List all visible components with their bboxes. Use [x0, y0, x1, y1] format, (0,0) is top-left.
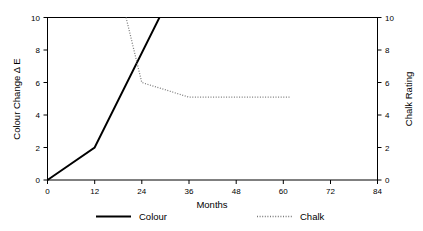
left-ytick-label-2: 2 [36, 144, 41, 153]
right-ytick-label-4: 4 [385, 111, 390, 120]
xtick-label-24: 24 [137, 187, 146, 196]
x-axis-title: Months [196, 199, 227, 210]
right-y-axis: 0 2 4 6 8 10 Chalk Rating [378, 14, 415, 186]
right-ytick-label-6: 6 [385, 79, 390, 88]
xtick-label-12: 12 [90, 187, 99, 196]
right-ytick-label-10: 10 [385, 14, 394, 23]
line-chart: 0 2 4 6 8 10 Colour Change Δ E 0 2 4 6 8… [0, 0, 423, 231]
right-ytick-label-8: 8 [385, 46, 390, 55]
xtick-label-36: 36 [185, 187, 194, 196]
left-ytick-label-6: 6 [36, 79, 41, 88]
plot-frame [48, 18, 378, 181]
left-ytick-label-8: 8 [36, 46, 41, 55]
legend-label-chalk: Chalk [300, 211, 325, 222]
x-axis: 0 12 24 36 48 60 72 84 Months [45, 180, 382, 210]
series-line-colour [48, 18, 160, 181]
right-axis-title: Chalk Rating [403, 72, 414, 126]
left-ytick-label-4: 4 [36, 111, 41, 120]
left-ytick-label-0: 0 [36, 176, 41, 185]
left-y-axis: 0 2 4 6 8 10 Colour Change Δ E [11, 14, 48, 186]
xtick-label-84: 84 [373, 187, 382, 196]
left-axis-title: Colour Change Δ E [11, 58, 22, 139]
legend-label-colour: Colour [139, 211, 167, 222]
xtick-label-48: 48 [232, 187, 241, 196]
series-layer [48, 18, 292, 181]
series-line-chalk [126, 18, 291, 98]
xtick-label-60: 60 [279, 187, 288, 196]
right-ytick-label-2: 2 [385, 144, 390, 153]
chart-container: 0 2 4 6 8 10 Colour Change Δ E 0 2 4 6 8… [0, 0, 423, 231]
right-ytick-label-0: 0 [385, 176, 390, 185]
xtick-label-72: 72 [326, 187, 335, 196]
left-ytick-label-10: 10 [31, 14, 40, 23]
xtick-label-0: 0 [45, 187, 50, 196]
chart-legend: Colour Chalk [96, 211, 325, 222]
